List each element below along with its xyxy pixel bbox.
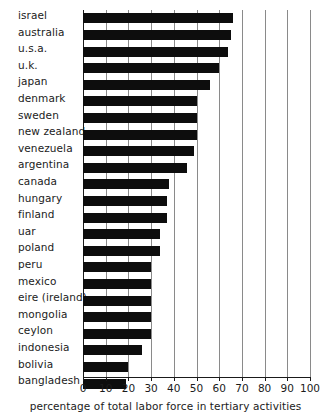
gridline-90 <box>287 10 288 378</box>
category-label-mongolia: mongolia <box>18 306 78 323</box>
bar-eire-ireland <box>83 296 151 306</box>
category-label-uar: uar <box>18 223 78 240</box>
x-tick-mark-50 <box>197 377 198 381</box>
category-label-sweden: sweden <box>18 107 78 124</box>
category-label-u-s-a: u.s.a. <box>18 40 78 57</box>
bar-uar <box>83 229 160 239</box>
category-label-argentina: argentina <box>18 156 78 173</box>
bar-venezuela <box>83 146 194 156</box>
bar-japan <box>83 80 210 90</box>
x-axis-title: percentage of total labor force in terti… <box>0 400 331 412</box>
category-label-indonesia: indonesia <box>18 339 78 356</box>
category-label-eire-ireland: eire (ireland) <box>18 289 78 306</box>
gridline-100 <box>310 10 311 378</box>
x-tick-mark-40 <box>174 377 175 381</box>
x-tick-mark-30 <box>151 377 152 381</box>
bar-finland <box>83 213 167 223</box>
bar-hungary <box>83 196 167 206</box>
bar-canada <box>83 179 169 189</box>
plot-area <box>83 10 310 378</box>
x-tick-mark-20 <box>128 377 129 381</box>
category-label-israel: israel <box>18 7 78 24</box>
x-tick-label-100: 100 <box>295 382 325 394</box>
category-label-canada: canada <box>18 173 78 190</box>
category-label-australia: australia <box>18 24 78 41</box>
category-label-new-zealand: new zealand <box>18 123 78 140</box>
bar-sweden <box>83 113 197 123</box>
bar-ceylon <box>83 329 151 339</box>
bar-new-zealand <box>83 130 197 140</box>
category-label-hungary: hungary <box>18 190 78 207</box>
x-tick-mark-10 <box>106 377 107 381</box>
bar-bolivia <box>83 362 128 372</box>
category-label-venezuela: venezuela <box>18 140 78 157</box>
bar-denmark <box>83 96 197 106</box>
bar-poland <box>83 246 160 256</box>
category-label-mexico: mexico <box>18 273 78 290</box>
bar-indonesia <box>83 345 142 355</box>
category-label-denmark: denmark <box>18 90 78 107</box>
bar-u-s-a <box>83 47 228 57</box>
category-label-poland: poland <box>18 239 78 256</box>
category-label-ceylon: ceylon <box>18 322 78 339</box>
x-tick-mark-80 <box>265 377 266 381</box>
category-label-column: israelaustraliau.s.a.u.k.japandenmarkswe… <box>0 0 80 378</box>
bar-peru <box>83 262 151 272</box>
bar-mexico <box>83 279 151 289</box>
gridline-70 <box>242 10 243 378</box>
x-tick-mark-0 <box>83 377 84 381</box>
x-tick-mark-90 <box>287 377 288 381</box>
x-tick-mark-60 <box>219 377 220 381</box>
x-tick-mark-70 <box>242 377 243 381</box>
category-label-bolivia: bolivia <box>18 356 78 373</box>
x-tick-mark-100 <box>310 377 311 381</box>
bar-australia <box>83 30 231 40</box>
category-label-u-k: u.k. <box>18 57 78 74</box>
category-label-finland: finland <box>18 206 78 223</box>
bar-argentina <box>83 163 187 173</box>
bar-israel <box>83 13 233 23</box>
chart-page: israelaustraliau.s.a.u.k.japandenmarkswe… <box>0 0 331 418</box>
bar-u-k <box>83 63 219 73</box>
category-label-japan: japan <box>18 73 78 90</box>
category-label-peru: peru <box>18 256 78 273</box>
gridline-80 <box>265 10 266 378</box>
gridline-60 <box>219 10 220 378</box>
bar-mongolia <box>83 312 151 322</box>
